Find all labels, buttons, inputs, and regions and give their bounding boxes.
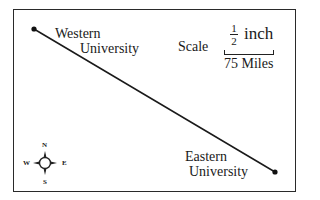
compass-rose-icon: N S W E (20, 138, 72, 190)
western-university-dot (31, 26, 36, 31)
scale-fraction: 1 2 (227, 23, 241, 46)
compass-east: E (62, 159, 67, 167)
fraction-numerator: 1 (227, 23, 241, 33)
scale-legend: Scale 1 2 inch 75 Miles (174, 20, 284, 70)
eastern-university-dot (272, 169, 277, 174)
compass-west: W (23, 159, 30, 167)
eastern-label-line2: University (189, 164, 248, 179)
compass-north: N (42, 141, 47, 149)
fraction-denominator: 2 (227, 36, 241, 46)
western-university-label: Western (55, 26, 101, 41)
eastern-university-label-line2: University (189, 164, 248, 179)
scale-distance: 75 Miles (224, 56, 273, 72)
eastern-university-label: Eastern (185, 149, 227, 164)
compass-south: S (43, 178, 47, 186)
western-university-label-line2: University (80, 41, 139, 56)
scale-label: Scale (178, 39, 208, 55)
scale-bracket (224, 50, 274, 55)
eastern-label-line1: Eastern (185, 149, 227, 164)
scale-unit: inch (244, 24, 273, 44)
western-label-line1: Western (55, 26, 101, 41)
western-label-line2: University (80, 41, 139, 56)
